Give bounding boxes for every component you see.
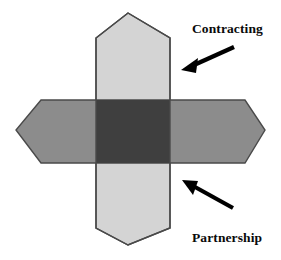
contracting-arrow — [181, 47, 234, 73]
partnership-arrow-shaft — [195, 187, 233, 208]
diagram-canvas: Contracting Partnership — [0, 0, 281, 260]
partnership-label: Partnership — [192, 230, 262, 246]
partnership-arrow — [182, 180, 233, 208]
partnership-arrow-head — [182, 180, 198, 195]
contracting-arrow-head — [181, 58, 198, 73]
contracting-arrow-shaft — [194, 47, 234, 65]
overlap-region-shape — [96, 100, 170, 163]
diagram-graphic — [0, 0, 281, 260]
contracting-label: Contracting — [192, 21, 263, 37]
